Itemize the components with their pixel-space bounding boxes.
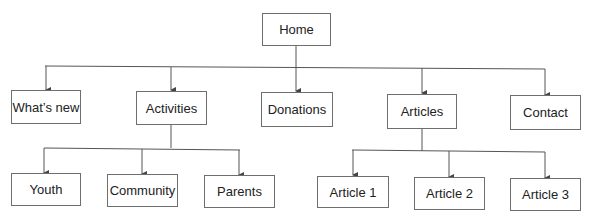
node-youth: Youth <box>11 173 81 206</box>
node-article-3: Article 3 <box>510 178 581 211</box>
node-contact: Contact <box>510 95 581 130</box>
node-articles: Articles <box>387 94 457 129</box>
node-home: Home <box>262 13 331 46</box>
node-whats-new: What’s new <box>11 90 81 124</box>
node-community: Community <box>107 174 178 207</box>
node-article-2: Article 2 <box>414 177 485 210</box>
node-activities: Activities <box>136 91 207 125</box>
node-parents: Parents <box>204 175 275 208</box>
node-article-1: Article 1 <box>317 176 389 208</box>
node-donations: Donations <box>261 92 333 127</box>
